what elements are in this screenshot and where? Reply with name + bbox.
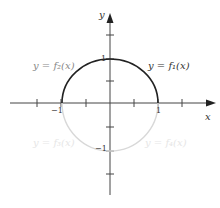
y-axis-arrow-icon bbox=[107, 13, 114, 23]
label-f1: y = f₁(x) bbox=[148, 61, 190, 71]
unit-circle-diagram bbox=[0, 0, 220, 208]
label-f4: y = f₄(x) bbox=[145, 138, 187, 148]
x-axis-label: x bbox=[205, 112, 211, 122]
x-tick-label-pos1: 1 bbox=[156, 107, 161, 115]
y-tick-label-neg1: −1 bbox=[95, 145, 107, 153]
x-axis-arrow-icon bbox=[206, 100, 216, 107]
label-f3: y = f₃(x) bbox=[33, 138, 75, 148]
label-f2: y = f₂(x) bbox=[33, 61, 75, 71]
y-tick-label-pos1: 1 bbox=[101, 55, 106, 63]
y-axis-label: y bbox=[99, 10, 105, 20]
x-tick-label-neg1: −1 bbox=[51, 107, 63, 115]
